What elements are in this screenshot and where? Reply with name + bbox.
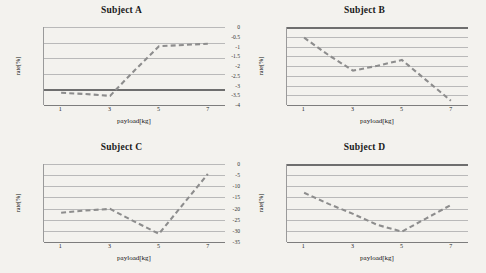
x-axis-title: payload[kg] (43, 117, 225, 125)
y-tick-label: -10 (233, 183, 240, 189)
x-tick-label: 5 (400, 243, 403, 249)
chart-subject-b: Subject B rate[%] 0-0.5-1-1.5-2-2.5-3-3.… (243, 0, 486, 136)
chart-title: Subject A (0, 5, 243, 15)
x-tick-label: 5 (157, 243, 160, 249)
y-tick-label: -15 (233, 194, 240, 200)
chart-title: Subject C (0, 142, 243, 152)
x-tick-label: 7 (449, 106, 452, 112)
chart-subject-c: Subject C rate[%] 706050403020100 1357 p… (0, 137, 243, 273)
chart-subject-d: Subject D rate[%] 0-5-10-15-20-25-30-35 … (243, 137, 486, 273)
plot-area (286, 27, 468, 105)
x-tick-label: 5 (400, 106, 403, 112)
x-axis-title: payload[kg] (286, 254, 468, 262)
y-tick-label: -2 (235, 63, 240, 69)
series-line (44, 164, 225, 242)
x-tick-label: 3 (351, 106, 354, 112)
y-tick-label: -4 (235, 102, 240, 108)
x-tick-label: 1 (59, 106, 62, 112)
plot-area (286, 164, 468, 242)
x-tick-label: 1 (59, 243, 62, 249)
y-tick-label: -3 (235, 83, 240, 89)
x-axis-title: payload[kg] (43, 254, 225, 262)
x-tick-label: 3 (351, 243, 354, 249)
y-tick-label: -1.5 (231, 53, 240, 59)
series-path (61, 174, 208, 234)
figure-panel-grid: Subject A rate[%] 200150100500-50 1357 p… (0, 0, 486, 273)
y-tick-label: -25 (233, 217, 240, 223)
x-tick-label: 7 (449, 243, 452, 249)
y-tick-label: -3.5 (231, 92, 240, 98)
x-tick-label: 3 (108, 243, 111, 249)
y-tick-label: -35 (233, 239, 240, 245)
y-tick-label: -2.5 (231, 73, 240, 79)
series-line (44, 27, 225, 105)
y-axis-title: rate[%] (14, 164, 26, 242)
series-path (61, 44, 208, 96)
y-tick-label: 0 (237, 161, 240, 167)
y-tick-label: -20 (233, 206, 240, 212)
chart-title: Subject D (243, 142, 486, 152)
series-line (287, 164, 468, 242)
chart-title: Subject B (243, 5, 486, 15)
x-axis-title: payload[kg] (286, 117, 468, 125)
x-tick-label: 1 (302, 106, 305, 112)
y-tick-label: -0.5 (231, 34, 240, 40)
x-tick-label: 5 (157, 106, 160, 112)
y-tick-label: -30 (233, 228, 240, 234)
series-path (304, 38, 451, 101)
series-line (287, 27, 468, 105)
y-tick-label: 0 (237, 24, 240, 30)
x-tick-label: 7 (206, 243, 209, 249)
x-tick-label: 1 (302, 243, 305, 249)
x-tick-label: 3 (108, 106, 111, 112)
chart-subject-a: Subject A rate[%] 200150100500-50 1357 p… (0, 0, 243, 136)
series-path (304, 193, 451, 232)
plot-area (43, 27, 225, 105)
y-tick-label: -5 (235, 172, 240, 178)
x-tick-label: 7 (206, 106, 209, 112)
y-axis-title: rate[%] (257, 164, 269, 242)
plot-area (43, 164, 225, 242)
y-axis-title: rate[%] (257, 27, 269, 105)
y-axis-title: rate[%] (14, 27, 26, 105)
y-tick-label: -1 (235, 44, 240, 50)
